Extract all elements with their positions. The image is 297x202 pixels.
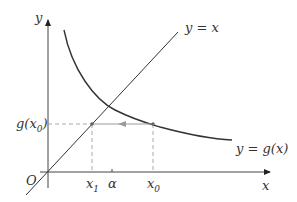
iteration-arrow-head — [118, 121, 126, 127]
gx0-label: g(x0) — [16, 116, 48, 134]
origin-label: O — [26, 173, 37, 188]
point-x0 — [151, 122, 155, 126]
identity-line — [26, 32, 178, 195]
y-axis-label: y — [34, 10, 43, 25]
point-x1 — [90, 122, 94, 126]
x0-label: x0 — [147, 176, 160, 194]
identity-line-label: y = x — [184, 20, 220, 35]
alpha-label: α — [108, 176, 117, 191]
x1-label: x1 — [86, 176, 99, 194]
x-axis-label: x — [262, 178, 270, 193]
fixed-point-diagram: y x O y = x y = g(x) x1 α x0 g(x0) — [0, 0, 297, 202]
g-curve-label: y = g(x) — [235, 141, 288, 156]
